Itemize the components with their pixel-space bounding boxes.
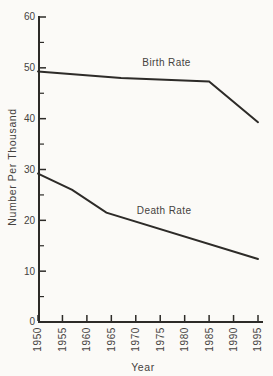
y-tick-label: 40 (24, 113, 36, 124)
x-tick-label: 1985 (204, 327, 215, 352)
death-rate-label: Death Rate (137, 205, 192, 216)
x-tick-label: 1950 (32, 327, 43, 352)
x-tick-label: 1975 (155, 327, 166, 352)
birth-rate-label: Birth Rate (142, 57, 191, 68)
y-tick-label: 10 (24, 266, 36, 277)
line-chart: 0102030405060195019551960196519701975198… (0, 0, 273, 376)
x-tick-label: 1965 (106, 327, 117, 352)
x-tick-label: 1980 (179, 327, 190, 352)
x-tick-label: 1955 (57, 327, 68, 352)
chart-figure: 0102030405060195019551960196519701975198… (0, 0, 273, 376)
x-tick-label: 1990 (228, 327, 239, 352)
y-tick-label: 30 (24, 164, 36, 175)
y-tick-label: 20 (24, 215, 36, 226)
y-tick-label: 60 (24, 11, 36, 22)
x-tick-label: 1995 (252, 327, 263, 352)
y-axis-label: Number Per Thousand (6, 108, 18, 225)
y-tick-label: 50 (24, 62, 36, 73)
x-tick-label: 1970 (130, 327, 141, 352)
x-axis-label: Year (131, 361, 155, 373)
y-tick-label: 0 (29, 316, 35, 327)
x-tick-label: 1960 (81, 327, 92, 352)
